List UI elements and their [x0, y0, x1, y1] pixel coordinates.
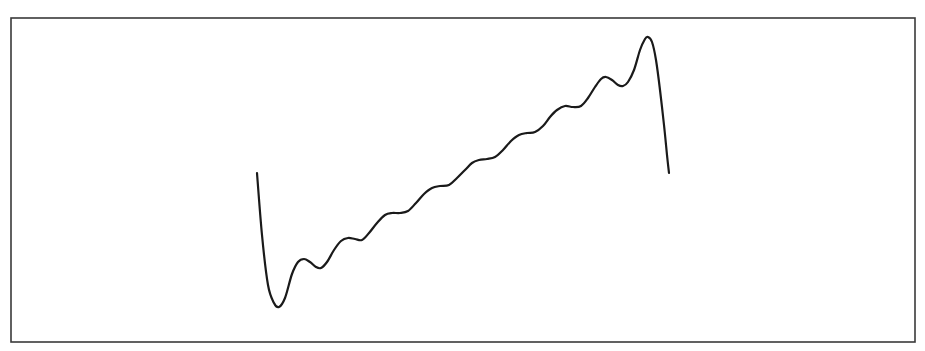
- chart-canvas: [0, 0, 925, 351]
- data-line: [257, 37, 669, 307]
- plot-frame: [11, 18, 915, 342]
